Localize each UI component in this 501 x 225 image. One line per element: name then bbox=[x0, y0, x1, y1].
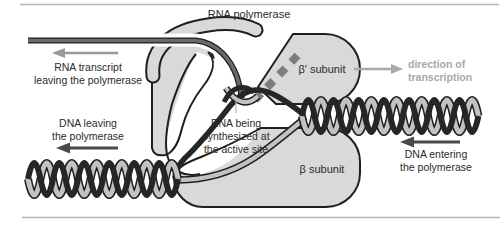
dna-helix-leaving bbox=[28, 163, 178, 195]
direction-of-transcription-label-line2: transcription bbox=[408, 71, 472, 83]
dna-entering-label-line2: the polymerase bbox=[400, 161, 472, 173]
beta-prime-subunit-label: β′ subunit bbox=[299, 63, 346, 75]
rna-transcript-arrow bbox=[52, 48, 118, 58]
dna-entering-arrow bbox=[400, 137, 460, 148]
active-site-label-line3: the active site bbox=[204, 143, 268, 155]
diagram-canvas: RNA polymerase RNA transcript leaving th… bbox=[0, 0, 501, 225]
rna-polymerase-label: RNA polymerase bbox=[208, 8, 291, 20]
rna-transcript-label-line2: leaving the polymerase bbox=[34, 74, 142, 86]
active-site-label-line1: RNA being bbox=[211, 117, 261, 129]
dna-leaving-label-line1: DNA leaving bbox=[59, 117, 117, 129]
dna-entering-label-line1: DNA entering bbox=[405, 148, 468, 160]
rna-transcript-label-line1: RNA transcript bbox=[54, 61, 122, 73]
dna-helix-entering bbox=[302, 100, 478, 132]
direction-of-transcription-label-line1: direction of bbox=[408, 58, 466, 70]
beta-subunit-label: β subunit bbox=[300, 163, 345, 175]
direction-of-transcription-arrow bbox=[354, 64, 403, 74]
rna-polymerase-transcription-diagram: RNA polymerase RNA transcript leaving th… bbox=[0, 0, 501, 225]
active-site-label-line2: synthesized at bbox=[202, 130, 269, 142]
dna-leaving-label-line2: the polymerase bbox=[52, 130, 124, 142]
dna-leaving-arrow bbox=[56, 143, 118, 154]
